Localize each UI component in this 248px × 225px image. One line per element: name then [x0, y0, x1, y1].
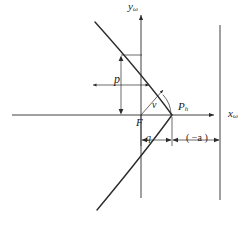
- focus-label: F: [136, 117, 143, 128]
- figure-canvas: yω xω p v F Ph q ( −a ): [0, 0, 248, 225]
- p-arrow-down-head: [119, 109, 124, 115]
- perifocus-point-label: Ph: [178, 101, 188, 113]
- parabola-curve: [95, 22, 172, 210]
- x-axis-label: xω: [228, 108, 238, 120]
- perifocal-distance-label: q: [146, 133, 151, 143]
- p-arrow-up-head: [119, 56, 124, 62]
- a-arrow-left-head: [173, 138, 179, 143]
- true-anomaly-label: v: [152, 100, 156, 110]
- q-arrow-right-head: [166, 138, 172, 143]
- a-arrow-right-head: [214, 138, 220, 143]
- diagram-svg: [0, 0, 248, 225]
- negative-semi-major-axis-label: ( −a ): [186, 133, 208, 143]
- y-axis-label: yω: [128, 1, 138, 13]
- semi-latus-rectum-label: p: [114, 73, 120, 85]
